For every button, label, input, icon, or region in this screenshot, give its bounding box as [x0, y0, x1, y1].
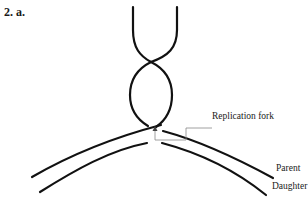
daughter-strand-right [162, 143, 266, 195]
parent-label: Parent [276, 163, 300, 173]
daughter-strand-left [40, 143, 147, 192]
parent-strand-right [163, 131, 273, 178]
bubble-right [151, 62, 172, 127]
bubble-left [130, 62, 151, 126]
parent-strand-left [32, 125, 161, 177]
replication-fork-label: Replication fork [212, 111, 274, 121]
upper-strand-left [133, 7, 151, 62]
upper-strand-right [151, 7, 177, 62]
daughter-label: Daughter [272, 181, 307, 191]
replication-fork-diagram [0, 0, 308, 200]
